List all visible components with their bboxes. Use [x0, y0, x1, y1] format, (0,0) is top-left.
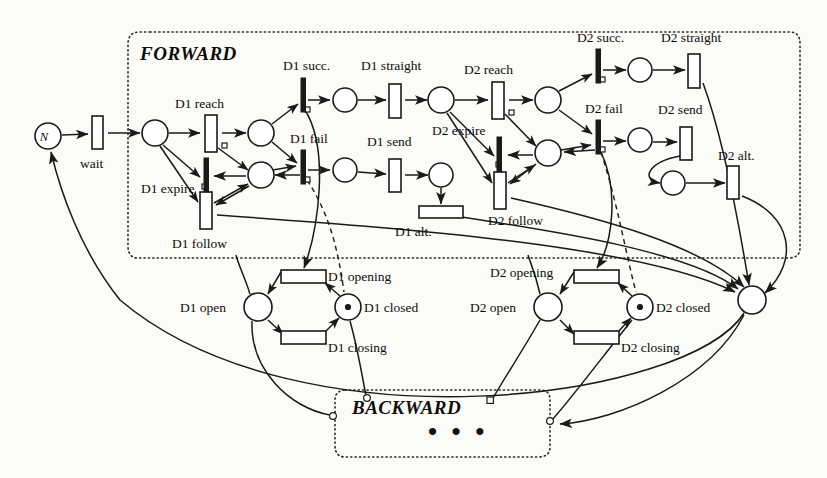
transition-d2-follow-label: D2 follow: [488, 213, 543, 228]
transition-d1-reach[interactable]: D1 reach: [175, 96, 224, 152]
place-d1-closed-label: D1 closed: [364, 300, 419, 315]
place-n-label: N: [39, 130, 49, 144]
place-d2-succ-out[interactable]: [628, 58, 652, 82]
petri-net-diagram: FORWARD BACKWARD • • •: [0, 0, 827, 478]
transition-d2-reach[interactable]: D2 reach: [464, 62, 513, 119]
place-d1-send-out[interactable]: [429, 163, 453, 187]
transition-d1-straight[interactable]: D1 straight: [361, 58, 422, 118]
transition-d2-expire-label: D2 expire: [432, 123, 486, 138]
region-forward-label: FORWARD: [139, 43, 237, 64]
transition-d2-closing[interactable]: D2 closing: [574, 331, 680, 355]
place-d2-closed-label: D2 closed: [656, 300, 711, 315]
transition-d1-alt-label: D1 alt.: [395, 224, 432, 239]
transition-d1-reach-label: D1 reach: [175, 96, 224, 111]
place-d2-open-label: D2 open: [470, 300, 516, 315]
place-d2-open[interactable]: D2 open: [470, 293, 562, 321]
place-d2-alt-in[interactable]: [661, 171, 685, 195]
transition-d2-send[interactable]: D2 send: [658, 102, 703, 160]
place-d2-fail-out[interactable]: [628, 128, 652, 152]
transition-d2-fail[interactable]: D2 fail: [585, 101, 623, 154]
place-d1-reached[interactable]: [248, 120, 274, 146]
transition-d1-follow-label: D1 follow: [172, 236, 227, 251]
transition-d2-reach-label: D2 reach: [464, 62, 513, 77]
place-d1-pending[interactable]: [248, 162, 274, 188]
place-start[interactable]: [142, 120, 168, 146]
transition-d2-alt-label: D2 alt.: [718, 148, 755, 163]
transition-d1-fail[interactable]: D1 fail: [290, 131, 328, 184]
transition-d1-expire-label: D1 expire: [141, 181, 195, 196]
place-merge[interactable]: [738, 286, 766, 314]
transition-d1-closing-label: D1 closing: [328, 340, 387, 355]
place-d1-succ-out[interactable]: [333, 88, 357, 112]
transition-d2-send-label: D2 send: [658, 102, 703, 117]
place-d1-closed[interactable]: D1 closed: [335, 294, 419, 320]
place-d2-pending[interactable]: [535, 140, 561, 166]
place-d2-closed[interactable]: D2 closed: [627, 294, 711, 320]
transition-d2-opening-label: D2 opening: [490, 265, 554, 280]
transition-d2-succ[interactable]: D2 succ.: [577, 30, 624, 83]
diagram-canvas: FORWARD BACKWARD • • •: [0, 0, 827, 478]
transition-d1-succ-label: D1 succ.: [283, 58, 330, 73]
region-backward-ellipsis: • • •: [428, 417, 488, 446]
token-d1-closed: [345, 304, 351, 310]
transition-d1-opening-label: D1 opening: [328, 269, 392, 284]
place-d1-straight-out[interactable]: [428, 87, 454, 113]
transition-d1-straight-label: D1 straight: [361, 58, 422, 73]
transition-d2-alt[interactable]: D2 alt.: [718, 148, 755, 199]
transition-d2-closing-label: D2 closing: [621, 340, 680, 355]
place-d1-fail-out[interactable]: [333, 158, 357, 182]
transition-d2-fail-label: D2 fail: [585, 101, 623, 116]
transition-d1-expire[interactable]: D1 expire: [141, 158, 209, 196]
transition-d2-straight[interactable]: D2 straight: [661, 30, 722, 88]
place-d1-open-label: D1 open: [180, 300, 226, 315]
place-d2-reached[interactable]: [535, 87, 561, 113]
place-d1-open[interactable]: D1 open: [180, 293, 272, 321]
transition-wait-label: wait: [80, 156, 103, 171]
transition-d1-send-label: D1 send: [367, 134, 412, 149]
transition-d1-opening[interactable]: D1 opening: [281, 269, 392, 284]
place-n[interactable]: N: [35, 123, 61, 149]
arcs-door-control-d2: [487, 150, 744, 424]
token-d2-closed: [637, 304, 643, 310]
transition-d2-straight-label: D2 straight: [661, 30, 722, 45]
transition-d1-fail-label: D1 fail: [290, 131, 328, 146]
transition-d2-opening[interactable]: D2 opening: [490, 265, 619, 283]
transition-d1-closing[interactable]: D1 closing: [281, 331, 387, 355]
transition-wait[interactable]: wait: [80, 116, 103, 171]
transition-d2-succ-label: D2 succ.: [577, 30, 624, 45]
transition-d1-send[interactable]: D1 send: [367, 134, 412, 192]
transition-d1-succ[interactable]: D1 succ.: [283, 58, 330, 112]
